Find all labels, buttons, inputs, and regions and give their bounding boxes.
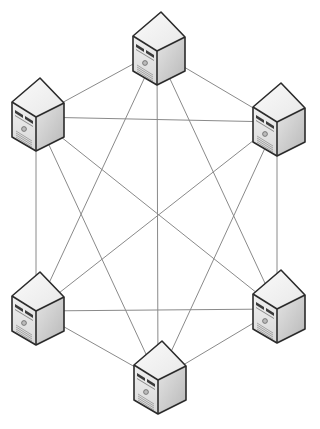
server-tower-icon [133, 12, 185, 85]
server-bottom [134, 341, 186, 414]
server-bottom-left [12, 272, 64, 345]
server-tower-icon [253, 83, 305, 156]
server-tower-icon [253, 270, 305, 343]
network-mesh-diagram [0, 0, 320, 429]
server-top-left [12, 78, 64, 151]
server-tower-icon [12, 272, 64, 345]
server-top [133, 12, 185, 85]
server-top-right [253, 83, 305, 156]
server-bottom-right [253, 270, 305, 343]
server-tower-icon [12, 78, 64, 151]
server-tower-icon [134, 341, 186, 414]
nodes-layer [0, 0, 320, 429]
